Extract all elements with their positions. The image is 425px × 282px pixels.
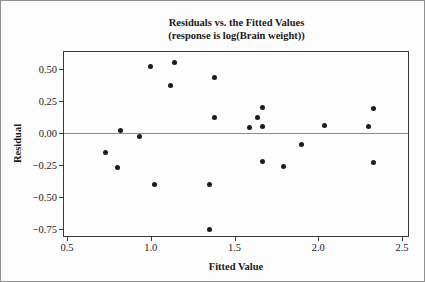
y-tick-label: −0.75: [21, 224, 57, 235]
x-tick-label: 1.0: [136, 242, 166, 253]
x-tick-label: 2.0: [303, 242, 333, 253]
chart-subtitle: (response is log(Brain weight)): [63, 29, 410, 42]
chart-title: Residuals vs. the Fitted Values: [63, 16, 410, 29]
y-tick-mark: [59, 133, 63, 134]
x-tick-mark: [402, 237, 403, 241]
y-tick-mark: [59, 229, 63, 230]
y-tick-label: −0.25: [21, 160, 57, 171]
data-point: [137, 134, 142, 139]
y-tick-mark: [59, 165, 63, 166]
x-tick-mark: [235, 237, 236, 241]
x-tick-label: 0.5: [52, 242, 82, 253]
data-point: [103, 150, 108, 155]
x-tick-mark: [318, 237, 319, 241]
y-tick-label: 0.25: [21, 96, 57, 107]
data-point: [152, 182, 157, 187]
data-point: [299, 142, 304, 147]
data-point: [371, 160, 376, 165]
y-tick-label: 0.50: [21, 64, 57, 75]
plot-area: [63, 51, 409, 237]
x-tick-label: 1.5: [220, 242, 250, 253]
x-tick-mark: [67, 237, 68, 241]
y-tick-mark: [59, 197, 63, 198]
y-tick-mark: [59, 69, 63, 70]
data-point: [172, 60, 177, 65]
y-tick-label: −0.50: [21, 192, 57, 203]
data-point: [212, 115, 217, 120]
x-tick-label: 2.5: [387, 242, 417, 253]
data-point: [118, 128, 123, 133]
x-tick-mark: [151, 237, 152, 241]
y-tick-label: 0.00: [21, 128, 57, 139]
zero-reference-line: [64, 133, 408, 134]
data-point: [207, 182, 212, 187]
data-point: [115, 165, 120, 170]
data-point: [207, 227, 212, 232]
x-axis-label: Fitted Value: [63, 261, 409, 272]
y-tick-mark: [59, 101, 63, 102]
residual-plot-figure: Residuals vs. the Fitted Values (respons…: [0, 0, 425, 282]
data-point: [281, 164, 286, 169]
chart-title-block: Residuals vs. the Fitted Values (respons…: [63, 16, 410, 42]
